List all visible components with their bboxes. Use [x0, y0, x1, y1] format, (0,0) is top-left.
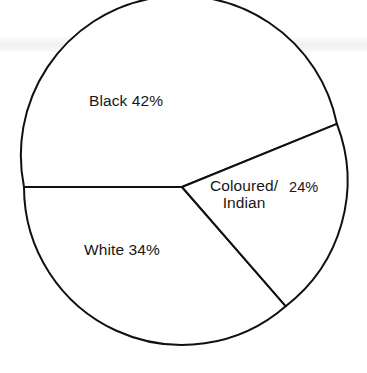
- pie-label-coloured-line-1: Coloured/: [210, 177, 278, 194]
- pie-label-coloured-indian-percent: 24%: [289, 180, 318, 196]
- pie-label-coloured-indian: Coloured/ Indian: [210, 178, 278, 211]
- pie-label-white: White 34%: [84, 242, 160, 259]
- pie-label-coloured-line-2: Indian: [210, 195, 278, 212]
- pie-chart-figure: Black 42% White 34% Coloured/ Indian 24%: [0, 0, 367, 373]
- pie-label-black: Black 42%: [89, 93, 163, 110]
